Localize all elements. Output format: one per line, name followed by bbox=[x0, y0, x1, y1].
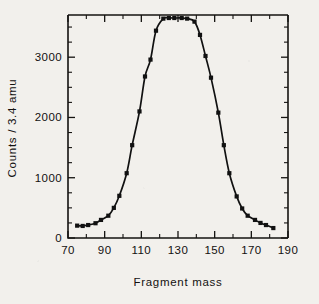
figure-panel: 7090110130150170190 0100020003000 Fragme… bbox=[0, 0, 319, 304]
data-point bbox=[185, 17, 189, 21]
data-point bbox=[258, 221, 262, 225]
y-axis-title: Counts / 3.4 amu bbox=[6, 79, 18, 178]
data-point bbox=[106, 214, 110, 218]
data-point bbox=[172, 16, 176, 20]
y-axis-ticks bbox=[68, 27, 288, 238]
fragment-mass-chart: 7090110130150170190 0100020003000 Fragme… bbox=[0, 0, 319, 304]
data-point bbox=[198, 33, 202, 37]
x-tick-label: 110 bbox=[132, 244, 152, 256]
x-tick-label: 150 bbox=[204, 244, 224, 256]
x-tick-label: 190 bbox=[278, 244, 298, 256]
data-point bbox=[240, 206, 244, 210]
data-point bbox=[148, 58, 152, 62]
data-point bbox=[99, 218, 103, 222]
data-curve bbox=[77, 18, 273, 229]
plot-frame bbox=[68, 15, 288, 238]
y-tick-label: 2000 bbox=[35, 111, 62, 123]
x-axis-title: Fragment mass bbox=[134, 276, 223, 288]
data-point bbox=[143, 74, 147, 78]
data-point bbox=[117, 194, 121, 198]
data-point bbox=[180, 16, 184, 20]
data-point bbox=[86, 223, 90, 227]
data-point bbox=[81, 224, 85, 228]
data-point bbox=[125, 171, 129, 175]
data-point bbox=[271, 226, 275, 230]
x-axis-ticks bbox=[68, 15, 288, 238]
y-axis-tick-labels: 0100020003000 bbox=[35, 51, 62, 244]
data-point bbox=[112, 206, 116, 210]
y-tick-label: 3000 bbox=[35, 51, 62, 63]
data-point bbox=[154, 29, 158, 33]
data-point bbox=[253, 218, 257, 222]
data-point bbox=[216, 111, 220, 115]
data-point bbox=[167, 16, 171, 20]
data-point bbox=[137, 109, 141, 113]
y-tick-label: 0 bbox=[55, 232, 62, 244]
data-point bbox=[130, 143, 134, 147]
data-point bbox=[246, 214, 250, 218]
data-point bbox=[192, 20, 196, 24]
x-tick-label: 70 bbox=[61, 244, 75, 256]
data-point bbox=[227, 171, 231, 175]
data-markers bbox=[75, 16, 275, 230]
x-tick-label: 170 bbox=[241, 244, 261, 256]
data-point bbox=[93, 221, 97, 225]
data-point bbox=[75, 224, 79, 228]
data-point bbox=[235, 194, 239, 198]
data-point bbox=[209, 76, 213, 80]
y-tick-label: 1000 bbox=[35, 172, 62, 184]
data-point bbox=[264, 223, 268, 227]
data-point bbox=[222, 143, 226, 147]
x-axis-tick-labels: 7090110130150170190 bbox=[61, 244, 298, 256]
x-tick-label: 90 bbox=[98, 244, 112, 256]
data-point bbox=[203, 54, 207, 58]
data-point bbox=[161, 17, 165, 21]
x-tick-label: 130 bbox=[168, 244, 188, 256]
